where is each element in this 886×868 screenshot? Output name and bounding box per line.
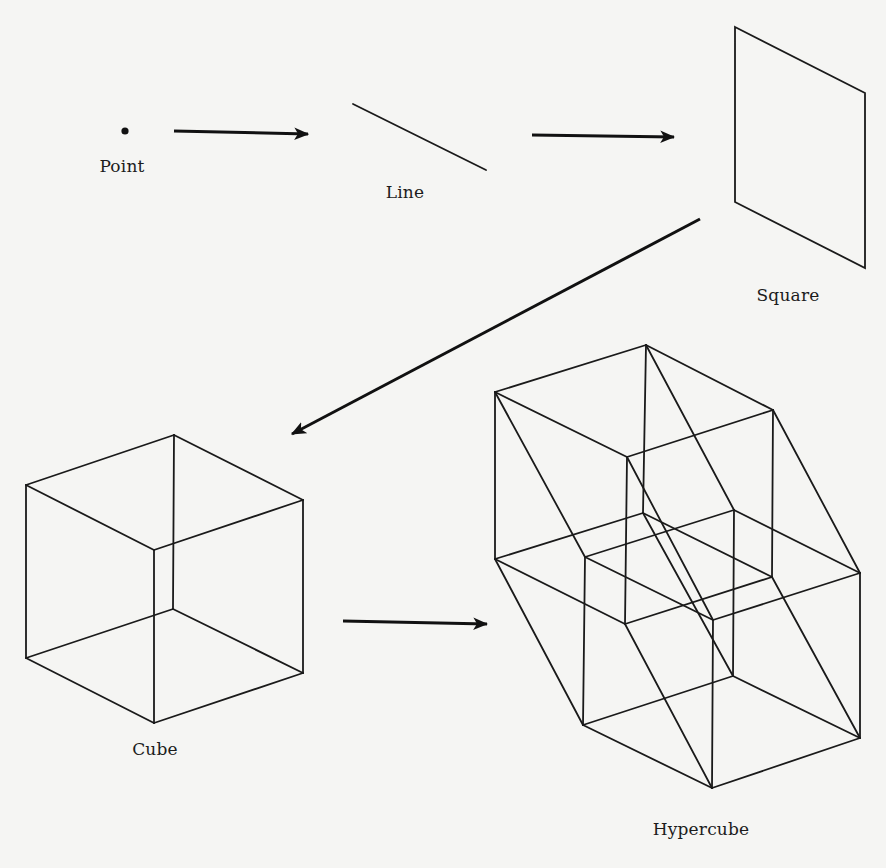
cube-label: Cube [132,739,178,759]
square-figure [735,27,865,268]
line-figure [353,104,486,170]
point-figure [121,127,128,134]
line-segment [353,104,486,170]
hypercube-label: Hypercube [653,819,750,839]
arrow-point-to-line [174,131,308,134]
arrow-line-to-square [532,135,674,137]
hypercube-figure [495,345,860,788]
square-label: Square [757,285,820,305]
point-label: Point [99,156,144,176]
arrow-cube-to-hypercube [343,621,487,624]
cube-figure [26,435,303,723]
square-shape [735,27,865,268]
line-label: Line [386,182,425,202]
point-dot [121,127,128,134]
diagram-canvas: Point Line Square Cube Hypercube [0,0,886,868]
diagram-svg [0,0,886,868]
arrow-square-to-cube [292,219,700,434]
